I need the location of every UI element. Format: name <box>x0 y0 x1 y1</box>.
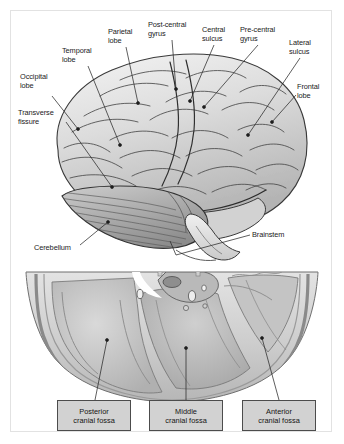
dot-frontal-lobe <box>271 121 274 124</box>
optic-canal <box>203 304 207 308</box>
label-frontal-lobe: Frontal lobe <box>297 83 335 100</box>
dot-parietal-lobe <box>137 102 140 105</box>
dot-temporal-lobe <box>119 144 122 147</box>
label-brainstem: Brainstem <box>252 231 302 240</box>
dot-cerebellum <box>107 221 110 224</box>
box-middle-cranial-fossa: Middle cranial fossa <box>149 400 223 431</box>
foramen-ovale <box>188 291 195 302</box>
label-occipital-lobe: Occipital lobe <box>20 73 68 90</box>
dot-transverse-fissure <box>111 186 114 189</box>
dot-anterior-fossa <box>261 337 264 340</box>
label-pre-central-gyrus: Pre-central gyrus <box>240 26 292 43</box>
label-temporal-lobe: Temporal lobe <box>62 47 106 64</box>
label-transverse-fissure: Transverse fissure <box>18 109 72 126</box>
dot-posterior-fossa <box>106 339 109 342</box>
dot-middle-fossa <box>185 347 188 350</box>
label-parietal-lobe: Parietal lobe <box>108 28 148 45</box>
dot-post-central-gyrus <box>175 88 178 91</box>
vessel-stub-right <box>196 262 200 276</box>
foramen-spinosum <box>202 285 207 291</box>
dot-central-sulcus <box>189 100 192 103</box>
foramen-magnum <box>163 277 181 288</box>
anatomy-illustration <box>0 0 344 444</box>
dot-occipital-lobe <box>77 128 80 131</box>
label-lateral-sulcus: Lateral sulcus <box>289 39 329 56</box>
dot-pre-central-gyrus <box>203 106 206 109</box>
vessel-stub-left <box>158 262 162 276</box>
label-post-central-gyrus: Post-central gyrus <box>148 21 202 38</box>
jugular-foramen <box>137 289 143 298</box>
dot-lateral-sulcus <box>247 134 250 137</box>
label-cerebellum: Cerebellum <box>34 244 90 253</box>
box-anterior-cranial-fossa: Anterior cranial fossa <box>242 400 316 431</box>
internal-acoustic-meatus <box>183 305 188 310</box>
label-central-sulcus: Central sulcus <box>202 26 242 43</box>
box-posterior-cranial-fossa: Posterior cranial fossa <box>57 400 131 431</box>
anatomy-figure: Occipital lobe Transverse fissure Tempor… <box>0 0 344 444</box>
